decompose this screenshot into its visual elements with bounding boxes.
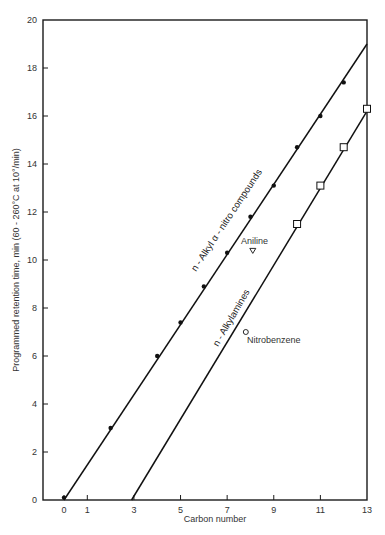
amine-series-label: n - Alkylamines [210,287,252,348]
filled-circle-marker [178,320,182,324]
y-tick-label: 6 [32,351,37,361]
x-tick-label: 0 [61,505,66,515]
y-tick-label: 18 [27,63,37,73]
open-square-marker [364,105,371,112]
filled-circle-marker [318,114,322,118]
x-tick-label: 5 [178,505,183,515]
open-square-marker [294,221,301,228]
filled-circle-marker [62,495,66,499]
filled-circle-marker [341,80,345,84]
data-markers [62,80,371,500]
y-tick-label: 16 [27,111,37,121]
y-tick-label: 12 [27,207,37,217]
y-tick-label: 0 [32,495,37,505]
filled-circle-marker [272,183,276,187]
y-tick-label: 20 [27,15,37,25]
open-square-marker [340,144,347,151]
x-tick-label: 9 [271,505,276,515]
retention-time-chart: 02468101214161820 0135791113 Carbon numb… [0,0,385,535]
x-tick-label: 13 [362,505,372,515]
open-square-marker [317,182,324,189]
filled-circle-marker [225,251,229,255]
x-tick-label: 1 [85,505,90,515]
y-tick-label: 14 [27,159,37,169]
filled-circle-marker [248,215,252,219]
y-tick-label: 4 [32,399,37,409]
filled-circle-marker [202,284,206,288]
x-tick-label: 3 [131,505,136,515]
aniline-label: Aniline [241,236,268,246]
open-triangle-marker [250,248,256,253]
filled-circle-marker [108,426,112,430]
x-axis-title: Carbon number [184,514,247,524]
x-tick-label: 11 [316,505,325,515]
filled-circle-marker [295,145,299,149]
x-axis-ticks: 0135791113 [61,495,372,515]
fit-line-0 [64,44,367,500]
nitrobenzene-label: Nitrobenzene [247,335,301,345]
y-axis-title: Programmed retention time, min (60 - 260… [11,148,21,371]
y-tick-label: 2 [32,447,37,457]
nitro-series-label: n - Alkyl α - nitro compounds [188,167,264,273]
y-tick-label: 10 [27,255,37,265]
fit-line-1 [132,111,367,500]
fit-lines [64,44,367,500]
y-tick-label: 8 [32,303,37,313]
open-circle-marker [243,330,248,335]
y-axis-ticks: 02468101214161820 [27,15,48,505]
filled-circle-marker [155,354,159,358]
